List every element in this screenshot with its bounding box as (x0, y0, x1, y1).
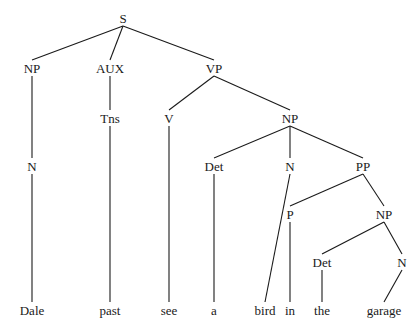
leaf-word: a (210, 304, 218, 317)
tree-node-det: Det (312, 256, 333, 269)
tree-node-v: V (163, 112, 174, 125)
tree-node-n: N (396, 256, 407, 269)
tree-edge-s-vp (123, 26, 214, 60)
tree-edge-np2-det1 (214, 126, 290, 158)
tree-edge-np3-det2 (322, 222, 384, 254)
syntax-tree-diagram: SNPAUXVPNTnsVNPDetNPPPNPDetNDalepastseea… (0, 0, 420, 330)
leaf-word: in (284, 304, 296, 317)
tree-node-det: Det (204, 160, 225, 173)
tree-edge-np2-pp (290, 126, 363, 158)
tree-edge-s-aux (110, 26, 123, 60)
tree-node-np: NP (375, 208, 394, 221)
tree-edge-vp-v (169, 76, 214, 110)
tree-node-n: N (26, 160, 37, 173)
tree-node-aux: AUX (95, 62, 125, 75)
tree-edge-n2-w5 (265, 174, 290, 302)
tree-node-tns: Tns (99, 112, 121, 125)
tree-node-np: NP (281, 112, 300, 125)
tree-node-np: NP (23, 62, 42, 75)
tree-node-vp: VP (205, 62, 224, 75)
tree-edge-pp-p (290, 174, 363, 206)
tree-edge-np3-n3 (384, 222, 402, 254)
leaf-word: see (160, 304, 179, 317)
tree-node-n: N (284, 160, 295, 173)
leaf-word: past (99, 304, 122, 317)
tree-node-s: S (118, 12, 127, 25)
leaf-word: bird (254, 304, 277, 317)
tree-edge-vp-np2 (214, 76, 290, 110)
tree-edge-pp-np3 (363, 174, 384, 206)
leaf-word: garage (366, 304, 403, 317)
tree-edge-n3-w8 (384, 270, 402, 302)
leaf-word: Dale (19, 304, 46, 317)
tree-edge-s-np1 (32, 26, 123, 60)
tree-node-p: P (285, 208, 294, 221)
leaf-word: the (313, 304, 331, 317)
tree-node-pp: PP (355, 160, 371, 173)
